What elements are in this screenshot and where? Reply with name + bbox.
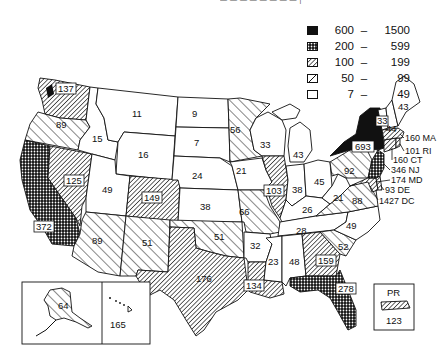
- legend-item-7-49: 7 – 49: [307, 86, 437, 102]
- legend-dash: –: [354, 72, 374, 84]
- svg-text:693: 693: [355, 141, 371, 152]
- svg-text:89: 89: [92, 235, 103, 246]
- svg-text:38: 38: [200, 201, 211, 212]
- legend-low: 600: [324, 24, 354, 36]
- svg-text:28: 28: [296, 225, 307, 236]
- svg-text:21: 21: [236, 165, 247, 176]
- legend-low: 7: [324, 88, 354, 100]
- legend-dash: –: [354, 56, 374, 68]
- legend-high: 599: [374, 40, 410, 52]
- svg-text:346 NJ: 346 NJ: [391, 165, 420, 175]
- svg-text:372: 372: [36, 221, 52, 232]
- state-nd: [176, 97, 229, 128]
- legend-low: 200: [324, 40, 354, 52]
- svg-text:16: 16: [138, 149, 149, 160]
- legend-dash: –: [354, 88, 374, 100]
- svg-text:89: 89: [56, 119, 67, 130]
- svg-text:165: 165: [110, 319, 126, 330]
- svg-text:49: 49: [346, 220, 357, 231]
- legend-high: 199: [374, 56, 410, 68]
- svg-text:48: 48: [289, 256, 300, 267]
- svg-text:176: 176: [196, 273, 212, 284]
- svg-text:52: 52: [338, 241, 349, 252]
- legend-dash: –: [354, 40, 374, 52]
- legend-high: 1500: [374, 24, 410, 36]
- swatch-solid-icon: [307, 26, 318, 35]
- svg-text:26: 26: [302, 204, 313, 215]
- svg-text:51: 51: [142, 237, 153, 248]
- svg-text:125: 125: [66, 175, 82, 186]
- state-ri: [396, 138, 400, 148]
- inset-frame-ak-hi: [22, 282, 150, 344]
- svg-text:49: 49: [102, 184, 113, 195]
- svg-text:93 DE: 93 DE: [385, 185, 410, 195]
- legend-low: 100: [324, 56, 354, 68]
- svg-text:24: 24: [192, 170, 203, 181]
- svg-text:45: 45: [314, 176, 325, 187]
- svg-text:64: 64: [58, 300, 69, 311]
- svg-text:51: 51: [214, 231, 225, 242]
- svg-text:43: 43: [398, 101, 409, 112]
- swatch-blank-icon: [307, 90, 318, 99]
- svg-text:56: 56: [230, 124, 241, 135]
- legend-high: 49: [374, 88, 410, 100]
- svg-text:92: 92: [344, 165, 355, 176]
- legend-item-600-1500: 600 – 1500: [307, 22, 437, 38]
- svg-text:PR: PR: [387, 287, 400, 298]
- svg-text:32: 32: [250, 240, 261, 251]
- svg-text:134: 134: [246, 280, 262, 291]
- svg-text:1427 DC: 1427 DC: [379, 196, 415, 206]
- legend-item-50-99: 50 – 99: [307, 70, 437, 86]
- svg-text:160 MA: 160 MA: [405, 133, 436, 143]
- state-pr: [381, 301, 410, 310]
- legend-high: 99: [374, 72, 410, 84]
- svg-text:174 MD: 174 MD: [391, 175, 423, 185]
- legend-dash: –: [354, 24, 374, 36]
- legend: 600 – 1500 200 – 599 100 – 199 50 – 99 7…: [307, 22, 437, 102]
- swatch-crosshatch-icon: [307, 42, 318, 51]
- legend-item-200-599: 200 – 599: [307, 38, 437, 54]
- svg-text:88: 88: [352, 195, 363, 206]
- svg-text:21: 21: [333, 192, 344, 203]
- svg-text:103: 103: [266, 185, 282, 196]
- svg-text:33: 33: [260, 139, 271, 150]
- svg-text:43: 43: [293, 149, 304, 160]
- legend-low: 50: [324, 72, 354, 84]
- svg-text:7: 7: [194, 137, 199, 148]
- svg-text:149: 149: [144, 192, 160, 203]
- svg-text:66: 66: [239, 206, 250, 217]
- swatch-sparse-hatch-icon: [307, 74, 318, 83]
- svg-text:11: 11: [132, 108, 142, 119]
- svg-text:44: 44: [386, 123, 397, 134]
- svg-text:123: 123: [386, 315, 402, 326]
- svg-text:137: 137: [58, 83, 74, 94]
- svg-text:23: 23: [268, 256, 279, 267]
- legend-item-100-199: 100 – 199: [307, 54, 437, 70]
- state-fl: [290, 270, 356, 330]
- svg-text:278: 278: [338, 283, 354, 294]
- svg-text:15: 15: [92, 133, 103, 144]
- svg-text:9: 9: [192, 108, 197, 119]
- svg-text:159: 159: [318, 255, 334, 266]
- svg-text:160 CT: 160 CT: [393, 155, 423, 165]
- swatch-dense-hatch-icon: [307, 58, 318, 67]
- svg-text:38: 38: [292, 184, 303, 195]
